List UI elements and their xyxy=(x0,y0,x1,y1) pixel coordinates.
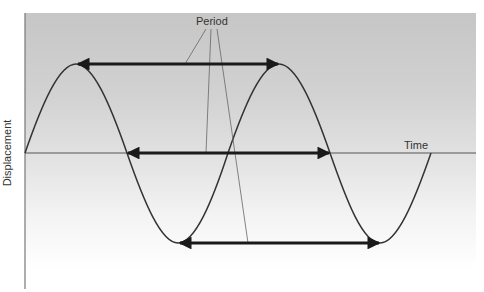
callout-line-middle xyxy=(206,29,211,153)
time-axis-label: Time xyxy=(404,139,428,151)
period-label: Period xyxy=(196,15,228,27)
callout-line-bottom xyxy=(217,29,248,243)
displacement-axis-label: Displacement xyxy=(1,118,17,188)
callout-line-top xyxy=(185,29,206,64)
